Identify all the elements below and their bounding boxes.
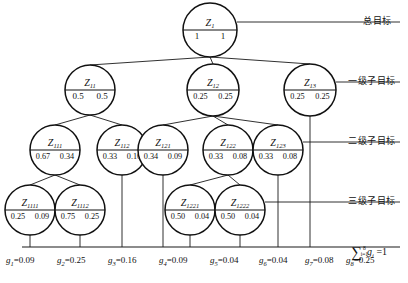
edge-Z122-Z1221 [190, 175, 228, 185]
node-Z1221[interactable]: Z12210.500.04 [165, 185, 215, 235]
node-value-right-Z123: 0.08 [283, 152, 297, 161]
weight-label-g4: g4=0.09 [159, 255, 188, 267]
node-value-left-Z1112: 0.75 [61, 212, 75, 221]
level-label-1: 总目标 [363, 14, 392, 27]
node-value-right-Z12: 0.25 [218, 92, 232, 101]
node-value-right-Z1112: 0.25 [85, 212, 99, 221]
edge-Z111-Z1112 [55, 175, 80, 185]
node-Z13[interactable]: Z130.250.25 [284, 64, 336, 116]
node-Z11[interactable]: Z110.50.5 [65, 65, 115, 115]
node-Z12[interactable]: Z120.250.25 [187, 64, 239, 116]
node-value-right-Z1: 1 [221, 31, 226, 41]
edge-Z111-Z1111 [30, 175, 55, 185]
node-Z121[interactable]: Z1210.340.09 [138, 125, 188, 175]
diagram-wires: Z111Z110.50.5Z120.250.25Z130.250.25Z1110… [0, 0, 408, 283]
node-Z123[interactable]: Z1230.330.08 [253, 125, 303, 175]
edge-Z12-Z123 [213, 116, 278, 125]
weight-label-g5: g5=0.04 [210, 255, 239, 267]
node-value-right-Z111: 0.34 [60, 152, 74, 161]
edge-Z1-Z13 [210, 57, 310, 64]
level-label-4: 三级子目标 [348, 194, 396, 207]
node-value-left-Z121: 0.34 [144, 152, 158, 161]
node-value-right-Z13: 0.25 [315, 92, 329, 101]
node-Z1111[interactable]: Z11110.250.09 [5, 185, 55, 235]
edge-Z11-Z112 [90, 115, 122, 125]
node-value-left-Z122: 0.33 [209, 152, 223, 161]
node-value-right-Z121: 0.09 [168, 152, 182, 161]
node-Z1222[interactable]: Z12220.500.04 [215, 185, 265, 235]
node-value-left-Z13: 0.25 [290, 92, 304, 101]
edge-Z122-Z1222 [228, 175, 240, 185]
diagram-canvas: Z111Z110.50.5Z120.250.25Z130.250.25Z1110… [0, 0, 408, 283]
summation-label: ∑8i=1gi =1 [351, 245, 387, 260]
weight-label-g6: g6=0.04 [259, 255, 288, 267]
node-value-left-Z1: 1 [195, 31, 200, 41]
node-value-left-Z11: 0.5 [72, 91, 84, 101]
node-Z111[interactable]: Z1110.670.34 [30, 125, 80, 175]
node-Z1112[interactable]: Z11120.750.25 [55, 185, 105, 235]
node-value-right-Z1111: 0.09 [35, 212, 49, 221]
weight-label-g7: g7=0.08 [305, 255, 334, 267]
edge-Z12-Z121 [163, 116, 213, 125]
weight-label-g2: g2=0.25 [57, 255, 86, 267]
node-value-right-Z11: 0.5 [96, 91, 108, 101]
node-Z1[interactable]: Z111 [183, 3, 237, 57]
level-label-2: 一级子目标 [348, 74, 396, 87]
weight-label-g1: g1=0.09 [6, 255, 35, 267]
node-Z122[interactable]: Z1220.330.08 [203, 125, 253, 175]
node-value-left-Z111: 0.67 [36, 152, 50, 161]
node-value-left-Z12: 0.25 [193, 92, 207, 101]
edge-Z11-Z111 [55, 115, 90, 125]
node-value-left-Z1111: 0.25 [11, 212, 25, 221]
node-value-right-Z1222: 0.04 [245, 212, 259, 221]
weight-label-g3: g3=0.16 [108, 255, 137, 267]
node-value-left-Z112: 0.33 [103, 152, 117, 161]
edge-Z1-Z12 [210, 57, 213, 64]
edge-Z1-Z11 [90, 57, 210, 65]
level-label-3: 二级子目标 [348, 134, 396, 147]
node-value-left-Z123: 0.33 [259, 152, 273, 161]
node-value-right-Z122: 0.08 [233, 152, 247, 161]
node-value-left-Z1222: 0.50 [221, 212, 235, 221]
node-value-left-Z1221: 0.50 [171, 212, 185, 221]
node-value-right-Z1221: 0.04 [195, 212, 209, 221]
